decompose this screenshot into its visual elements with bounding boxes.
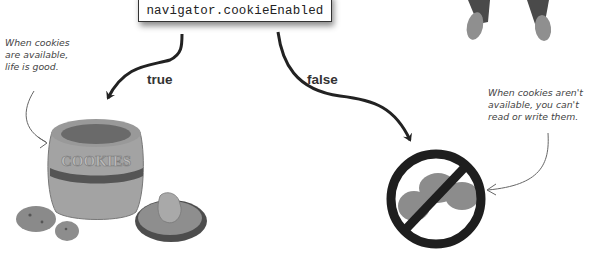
true-branch-label: true (147, 72, 173, 87)
jar-label: COOKIES (61, 153, 131, 169)
right-annotation: When cookies aren't available, you can't… (488, 87, 583, 123)
true-arrow (108, 34, 182, 98)
no-cookies-sign-icon (391, 154, 481, 244)
false-arrow (278, 32, 410, 140)
code-expression: navigator.cookieEnabled (146, 4, 323, 18)
person-legs-icon (464, 0, 552, 42)
lid-icon (135, 193, 207, 242)
code-expression-box: navigator.cookieEnabled (138, 0, 332, 22)
cookie-jar-icon: COOKIES (48, 119, 143, 220)
left-annotation: When cookies are available, life is good… (5, 37, 70, 73)
right-note-pointer (488, 133, 548, 190)
left-note-pointer (26, 91, 46, 142)
false-branch-label: false (307, 72, 338, 87)
diagram-canvas: COOKIES (0, 0, 594, 255)
